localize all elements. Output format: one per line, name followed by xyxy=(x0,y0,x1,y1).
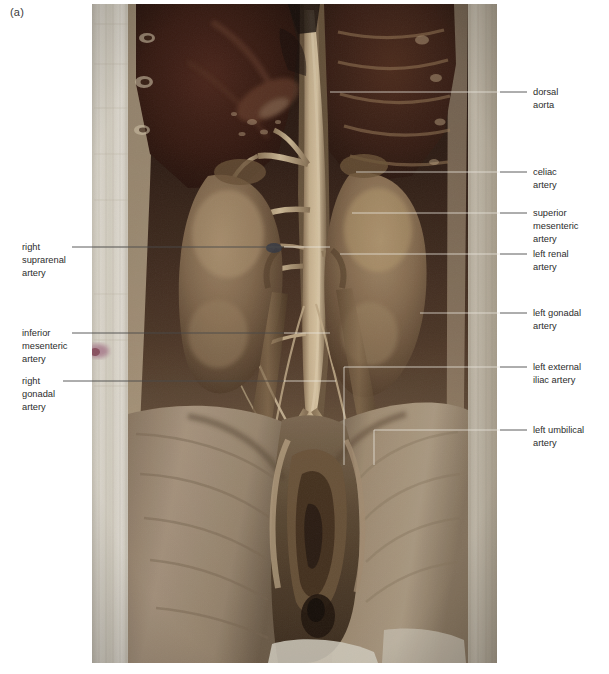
label-right-gonadal-artery: right gonadal artery xyxy=(22,375,55,415)
dissection-photograph xyxy=(92,4,497,663)
label-left-renal-artery: left renal artery xyxy=(533,248,569,274)
label-dorsal-aorta: dorsal aorta xyxy=(533,86,558,112)
panel-letter: (a) xyxy=(10,6,24,18)
label-superior-mesenteric-artery: superior mesenteric artery xyxy=(533,207,578,247)
label-left-gonadal-artery: left gonadal artery xyxy=(533,307,581,333)
label-left-external-iliac-artery: left external iliac artery xyxy=(533,361,581,387)
label-inferior-mesenteric-artery: inferior mesenteric artery xyxy=(22,327,67,367)
label-left-umbilical-artery: left umbilical artery xyxy=(533,424,584,450)
label-right-suprarenal-artery: right suprarenal artery xyxy=(22,241,66,281)
anatomical-figure: (a) xyxy=(0,0,609,674)
label-celiac-artery: celiac artery xyxy=(533,166,557,192)
photograph-canvas xyxy=(92,4,497,663)
